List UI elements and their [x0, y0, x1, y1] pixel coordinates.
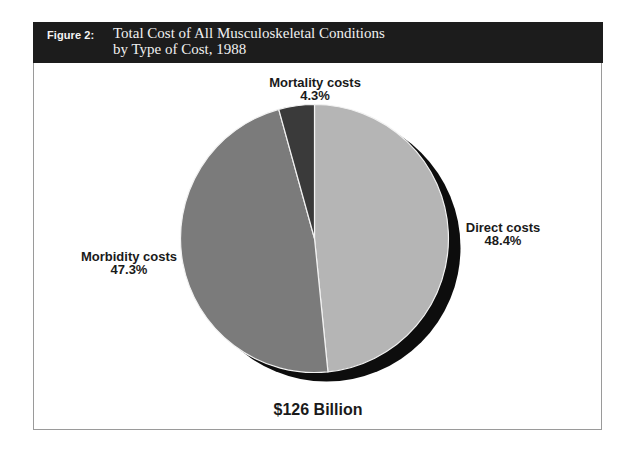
label-mortality: Mortality costs 4.3%	[245, 76, 385, 102]
label-direct: Direct costs 48.4%	[458, 221, 548, 247]
label-morbidity: Morbidity costs 47.3%	[70, 250, 188, 276]
total-cost-label: $126 Billion	[33, 401, 603, 419]
label-mortality-pct: 4.3%	[245, 89, 385, 102]
label-morbidity-pct: 47.3%	[70, 263, 188, 276]
label-direct-pct: 48.4%	[458, 234, 548, 247]
pie-slices	[181, 105, 449, 373]
